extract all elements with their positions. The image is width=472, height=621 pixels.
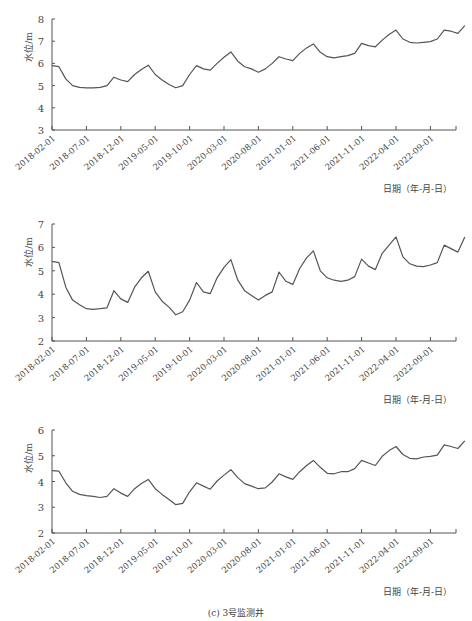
x-axis-label: 日期（年-月-日） xyxy=(383,586,452,597)
y-tick-label: 3 xyxy=(38,125,44,136)
y-axis-label: 水位/m xyxy=(23,237,34,267)
y-tick-label: 2 xyxy=(38,528,44,539)
y-tick-label: 3 xyxy=(38,313,44,324)
y-tick-label: 6 xyxy=(38,58,44,69)
chart-panel-a: 345678水位/m2018-02-012018-07-012018-12-01… xyxy=(0,0,472,205)
chart-title: (c) 3号监测井 xyxy=(208,607,265,618)
y-tick-label: 6 xyxy=(38,425,44,436)
y-axis-label: 水位/m xyxy=(23,443,34,473)
y-tick-label: 4 xyxy=(38,289,44,300)
chart-c: 23456水位/m2018-02-012018-07-012018-12-012… xyxy=(0,415,472,621)
series-line xyxy=(52,441,465,505)
y-tick-label: 7 xyxy=(38,219,44,230)
chart-panel-b: 234567水位/m2018-02-012018-07-012018-12-01… xyxy=(0,205,472,415)
chart-b: 234567水位/m2018-02-012018-07-012018-12-01… xyxy=(0,205,472,415)
chart-panel-c: 23456水位/m2018-02-012018-07-012018-12-012… xyxy=(0,415,472,621)
y-tick-label: 5 xyxy=(38,451,44,462)
y-tick-label: 6 xyxy=(38,242,44,253)
y-tick-label: 5 xyxy=(38,266,44,277)
chart-a: 345678水位/m2018-02-012018-07-012018-12-01… xyxy=(0,0,472,205)
y-tick-label: 2 xyxy=(38,336,44,347)
y-tick-label: 7 xyxy=(38,36,44,47)
y-tick-label: 8 xyxy=(38,14,44,25)
y-axis-label: 水位/m xyxy=(23,32,34,62)
y-tick-label: 3 xyxy=(38,502,44,513)
y-tick-label: 4 xyxy=(38,103,44,114)
series-line xyxy=(52,26,465,88)
series-line xyxy=(52,237,465,315)
y-tick-label: 4 xyxy=(38,477,44,488)
x-axis-label: 日期（年-月-日） xyxy=(383,394,452,405)
x-axis-label: 日期（年-月-日） xyxy=(383,183,452,194)
y-tick-label: 5 xyxy=(38,81,44,92)
